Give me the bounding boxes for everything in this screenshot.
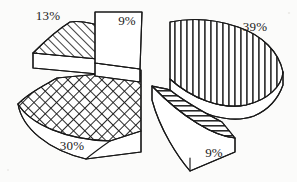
pie-label-39: 39% bbox=[243, 19, 267, 34]
paper-speck bbox=[288, 12, 290, 14]
pie-label-30: 30% bbox=[60, 138, 84, 153]
pie-chart-canvas: 13% 9% 39% 9% 30% bbox=[0, 0, 297, 182]
pie-chart-figure: 13% 9% 39% 9% 30% bbox=[0, 0, 297, 182]
pie-label-9-bottom: 9% bbox=[205, 145, 223, 160]
pie-label-9-top: 9% bbox=[118, 13, 136, 28]
pie-label-13: 13% bbox=[36, 8, 60, 23]
paper-speck bbox=[7, 169, 9, 171]
